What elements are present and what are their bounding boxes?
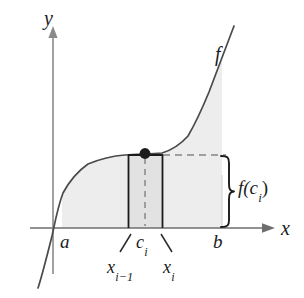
tick-label-a: a <box>60 232 70 251</box>
brace-label-subscript: i <box>258 190 262 205</box>
brace-label-prefix: f(c <box>238 177 258 198</box>
leader-line-x-i <box>161 234 172 252</box>
tick-label-x-i-minus-1: xi−1 <box>107 258 133 280</box>
curve-label: f <box>215 44 221 64</box>
tick-label-c-i-base: c <box>136 232 144 252</box>
tick-label-x-i-base: x <box>163 257 171 277</box>
tick-label-c-i-subscript: i <box>144 245 147 259</box>
tick-label-x-i-minus-1-base: x <box>107 257 115 277</box>
sample-point-dot <box>140 148 151 159</box>
x-axis-label: x <box>281 218 290 238</box>
y-axis-label: y <box>44 8 53 28</box>
height-brace <box>221 156 234 227</box>
tick-label-x-i: xi <box>163 258 174 280</box>
riemann-sum-figure <box>0 0 304 298</box>
leader-line-x-i-minus-1 <box>120 234 131 252</box>
x-axis-arrowhead <box>262 223 275 233</box>
tick-label-b: b <box>213 232 223 251</box>
brace-label-suffix: ) <box>262 177 268 198</box>
tick-label-x-i-minus-1-subscript: i−1 <box>115 270 133 284</box>
brace-label-f-of-c-i: f(ci) <box>238 178 268 202</box>
tick-label-x-i-subscript: i <box>171 270 174 284</box>
tick-label-c-i: ci <box>136 233 147 255</box>
